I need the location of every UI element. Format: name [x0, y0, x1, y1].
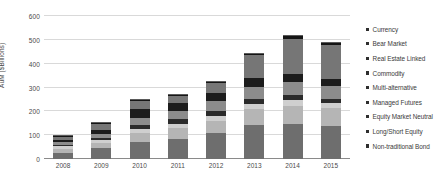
legend-item[interactable]: Multi-alternative	[366, 80, 448, 95]
bar-segment	[168, 95, 188, 96]
bar-segment	[53, 153, 73, 159]
bar-segment	[321, 103, 341, 108]
bar-2013	[244, 53, 264, 159]
x-axis-tick-label: 2014	[285, 162, 300, 169]
bar-segment	[206, 116, 226, 121]
bar-segment	[206, 133, 226, 159]
bar-2010	[130, 99, 150, 159]
legend-swatch-icon	[366, 130, 369, 133]
bar-segment	[283, 35, 303, 36]
x-axis-tick-label: 2010	[132, 162, 147, 169]
y-axis-tick-label: 400	[2, 60, 40, 67]
bar-segment	[321, 42, 341, 43]
legend-item-label: Non-traditional Bond	[373, 143, 430, 150]
bar-segment	[206, 101, 226, 111]
plot-area	[44, 16, 350, 159]
y-axis-tick-label: 300	[2, 84, 40, 91]
bar-2014	[283, 35, 303, 159]
bar-segment	[244, 53, 264, 54]
bar-segment	[168, 94, 188, 95]
bar-segment	[283, 39, 303, 74]
bar-segment	[321, 42, 341, 44]
legend-swatch-icon	[366, 28, 369, 31]
bar-segment	[130, 133, 150, 142]
legend-swatch-icon	[366, 42, 369, 45]
bar-segment	[91, 138, 111, 140]
bar-segment	[130, 100, 150, 101]
y-axis-tick-label: 600	[2, 13, 40, 20]
y-axis-tick-label: 0	[2, 156, 40, 163]
legend-item[interactable]: Currency	[366, 22, 448, 37]
legend-item[interactable]: Long/Short Equity	[366, 124, 448, 139]
gridline	[44, 15, 350, 16]
bar-segment	[283, 124, 303, 160]
bar-2009	[91, 122, 111, 159]
bar-segment	[283, 74, 303, 82]
gridline	[44, 39, 350, 40]
legend-swatch-icon	[366, 101, 369, 104]
legend-item-label: Currency	[373, 26, 399, 33]
legend-item-label: Long/Short Equity	[373, 128, 423, 135]
bar-segment	[91, 123, 111, 124]
legend-item[interactable]: Non-traditional Bond	[366, 139, 448, 154]
bar-segment	[206, 83, 226, 94]
bar-segment	[168, 96, 188, 104]
legend-swatch-icon	[366, 115, 369, 118]
bar-segment	[53, 142, 73, 145]
bar-segment	[91, 124, 111, 130]
legend-item-label: Multi-alternative	[373, 84, 417, 91]
y-axis-labels: 0100200300400500600	[0, 0, 40, 179]
legend-item[interactable]: Managed Futures	[366, 95, 448, 110]
bar-segment	[283, 82, 303, 95]
bar-segment	[53, 146, 73, 148]
bar-segment	[53, 149, 73, 153]
legend-item[interactable]: Bear Market	[366, 37, 448, 52]
bar-segment	[168, 103, 188, 111]
bar-segment	[321, 45, 341, 79]
bar-segment	[206, 81, 226, 82]
bar-segment	[321, 86, 341, 99]
bar-segment	[244, 125, 264, 159]
chart-legend: CurrencyBear MarketReal Estate LinkedCom…	[366, 22, 448, 153]
bar-segment	[206, 82, 226, 83]
bar-2011	[168, 94, 188, 159]
legend-swatch-icon	[366, 71, 369, 74]
bar-segment	[244, 55, 264, 78]
bar-segment	[244, 109, 264, 125]
bar-segment	[283, 95, 303, 100]
bar-segment	[206, 111, 226, 116]
bar-segment	[130, 109, 150, 118]
bar-2008	[53, 135, 73, 159]
bar-segment	[53, 140, 73, 142]
y-axis-tick-label: 500	[2, 36, 40, 43]
bar-segment	[130, 118, 150, 125]
bar-segment	[321, 108, 341, 126]
bar-segment	[130, 142, 150, 159]
x-axis-tick-label: 2012	[209, 162, 224, 169]
bar-segment	[53, 135, 73, 136]
bar-segment	[244, 78, 264, 87]
legend-item-label: Commodity	[373, 70, 405, 77]
legend-item-label: Managed Futures	[373, 99, 422, 106]
gridline	[44, 87, 350, 88]
bar-segment	[321, 99, 341, 103]
legend-item[interactable]: Equity Market Neutral	[366, 110, 448, 125]
bar-segment	[91, 143, 111, 148]
bar-segment	[168, 124, 188, 128]
bar-segment	[130, 125, 150, 129]
gridline	[44, 63, 350, 64]
legend-item[interactable]: Real Estate Linked	[366, 51, 448, 66]
legend-swatch-icon	[366, 86, 369, 89]
bar-segment	[244, 99, 264, 104]
legend-item[interactable]: Commodity	[366, 66, 448, 81]
bar-segment	[244, 87, 264, 99]
bar-segment	[91, 134, 111, 138]
bar-2015	[321, 42, 341, 159]
bar-segment	[321, 79, 341, 86]
x-axis-line	[44, 158, 350, 159]
bar-segment	[91, 148, 111, 159]
bar-segment	[206, 93, 226, 101]
stacked-bar-chart: AuM ($Billions) 0100200300400500600 2008…	[0, 0, 448, 179]
y-axis-tick-label: 100	[2, 132, 40, 139]
y-axis-tick-label: 200	[2, 108, 40, 115]
